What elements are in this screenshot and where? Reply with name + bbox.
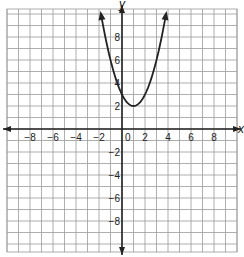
axes [3,5,241,255]
x-tick-label: −6 [47,132,59,143]
y-axis-label: y [118,0,126,11]
coordinate-plane: −8−6−4−202468−8−6−4−22468 x y [0,0,244,257]
curve-arrow-icon [99,11,106,20]
x-tick-label: 2 [142,132,148,143]
y-tick-label: −4 [109,170,121,181]
x-tick-label: 4 [165,132,171,143]
y-tick-label: 8 [114,32,120,43]
x-tick-label: 6 [188,132,194,143]
y-tick-label: 2 [114,101,120,112]
curve-arrow-icon [162,11,169,20]
x-axis-label: x [237,122,244,136]
x-tick-label: −4 [70,132,82,143]
x-tick-label: 0 [125,132,131,143]
y-tick-label: −8 [109,216,121,227]
x-tick-label: −8 [24,132,36,143]
x-tick-label: −2 [93,132,105,143]
y-tick-label: −6 [109,193,121,204]
x-tick-label: 8 [211,132,217,143]
y-tick-label: 6 [114,55,120,66]
y-tick-label: −2 [109,147,121,158]
y-axis-down-arrow-icon [119,247,125,255]
